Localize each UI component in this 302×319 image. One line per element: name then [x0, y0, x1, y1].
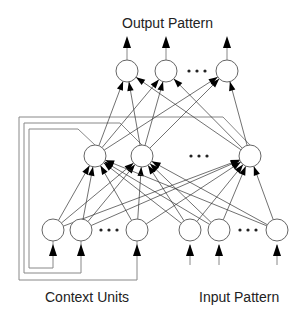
context-ellipsis-icon — [107, 228, 110, 231]
hidden-ellipsis-icon — [205, 154, 208, 157]
output-unit-node — [216, 60, 238, 82]
arrowhead-icon — [77, 244, 85, 256]
input-ellipsis-icon — [254, 228, 257, 231]
arrowhead-icon — [223, 36, 231, 48]
connection-line — [61, 163, 133, 223]
arrowhead-icon — [123, 36, 131, 48]
context-unit-node — [126, 219, 148, 241]
arrowhead-icon — [49, 244, 57, 256]
feedback-loop-line — [29, 129, 95, 268]
context-units-label: Context Units — [45, 289, 129, 305]
arrowhead-icon — [162, 36, 170, 48]
connection-line — [88, 164, 135, 221]
hidden-unit-node — [239, 145, 261, 167]
context-unit-node — [70, 219, 92, 241]
output-ellipsis-icon — [203, 69, 206, 72]
connection-line — [99, 81, 123, 145]
input-ellipsis-icon — [238, 228, 241, 231]
input-ellipsis-icon — [246, 228, 249, 231]
arrowhead-icon — [117, 81, 123, 91]
connection-line — [150, 164, 211, 223]
arrowhead-icon — [133, 244, 141, 256]
recurrent-network-diagram — [0, 0, 302, 319]
connection-line — [145, 82, 163, 146]
input-unit-node — [208, 219, 230, 241]
arrowhead-icon — [254, 166, 260, 176]
hidden-unit-node — [84, 145, 106, 167]
arrowhead-icon — [157, 82, 163, 92]
connection-line — [136, 77, 241, 149]
input-unit-node — [266, 219, 288, 241]
context-ellipsis-icon — [99, 228, 102, 231]
output-ellipsis-icon — [187, 69, 190, 72]
connection-line — [230, 82, 247, 146]
arrowhead-icon — [82, 166, 89, 175]
connection-line — [152, 161, 268, 224]
hidden-unit-node — [131, 145, 153, 167]
input-pattern-label: Input Pattern — [199, 289, 279, 305]
arrowhead-icon — [186, 244, 194, 256]
output-unit-node — [116, 60, 138, 82]
context-unit-node — [42, 219, 64, 241]
output-unit-node — [155, 60, 177, 82]
arrowhead-icon — [127, 82, 133, 91]
hidden-ellipsis-icon — [197, 154, 200, 157]
input-unit-node — [179, 219, 201, 241]
arrowhead-icon — [229, 82, 235, 92]
hidden-ellipsis-icon — [189, 154, 192, 157]
arrowhead-icon — [136, 77, 145, 85]
output-ellipsis-icon — [195, 69, 198, 72]
output-pattern-label: Output Pattern — [122, 15, 213, 31]
arrowhead-icon — [151, 79, 159, 88]
context-ellipsis-icon — [115, 228, 118, 231]
arrowhead-icon — [215, 244, 223, 256]
arrowhead-icon — [273, 244, 281, 256]
connection-line — [148, 165, 184, 221]
